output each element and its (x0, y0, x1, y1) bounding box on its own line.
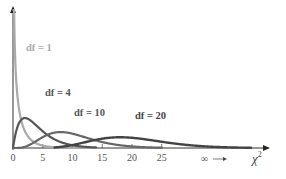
label-df1: df = 1 (26, 42, 52, 53)
infinity-annotation: ∞ (201, 153, 227, 164)
label-df4: df = 4 (45, 87, 72, 98)
chi-square-distribution-chart: 0510152025 df = 1 df = 4 df = 10 df = 20… (0, 0, 286, 179)
axes (10, 6, 270, 151)
x-tick-label: 15 (97, 152, 107, 163)
label-df10: df = 10 (74, 107, 105, 118)
svg-text:∞: ∞ (201, 153, 208, 164)
x-tick-label: 25 (157, 152, 167, 163)
x-axis-label: χ2 (250, 150, 262, 166)
x-axis-arrow-icon (263, 145, 270, 151)
label-df20: df = 20 (135, 110, 166, 121)
x-tick-label: 5 (40, 152, 45, 163)
curve-df10 (13, 132, 162, 148)
curves (13, 10, 251, 148)
x-tick-label: 20 (127, 152, 137, 163)
infinity-arrow-icon (223, 157, 227, 161)
curve-df1 (13, 10, 96, 148)
x-tick-label: 10 (68, 152, 78, 163)
x-tick-label: 0 (11, 152, 16, 163)
